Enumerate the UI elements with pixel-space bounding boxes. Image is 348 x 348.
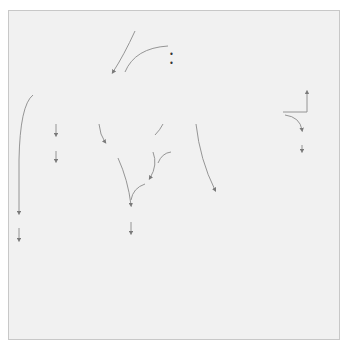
stimuli-item: • [170, 59, 173, 69]
epithelium-diagram [0, 0, 348, 348]
